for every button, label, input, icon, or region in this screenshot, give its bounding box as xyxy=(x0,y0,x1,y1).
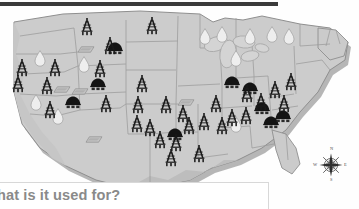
map-landmass xyxy=(13,11,348,188)
compass-south-label: S xyxy=(330,178,332,182)
compass-west-label: W xyxy=(313,163,317,167)
compass-rose: N S W E xyxy=(313,147,349,183)
resource-map-page: hat is it used for? N S W E xyxy=(0,0,359,209)
united-states-map-svg[interactable] xyxy=(0,8,359,193)
question-text: hat is it used for? xyxy=(0,186,213,204)
map-stage[interactable] xyxy=(0,8,359,193)
compass-north-label: N xyxy=(330,147,333,151)
top-horizontal-rule xyxy=(0,2,278,6)
compass-east-label: E xyxy=(344,163,347,167)
